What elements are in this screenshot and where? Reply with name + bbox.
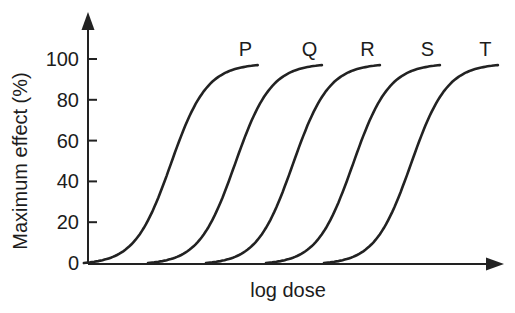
curve-label-S: S [421,38,434,60]
curve-label-Q: Q [302,38,318,60]
curve-label-P: P [239,38,252,60]
dose-response-chart: 020406080100PQRSTlog doseMaximum effect … [0,0,515,313]
curve-Q [148,65,322,263]
y-axis-arrow-icon [82,12,95,30]
y-axis-label: Maximum effect (%) [9,72,31,249]
y-tick-label-0: 0 [68,252,79,274]
dose-response-figure: 020406080100PQRSTlog doseMaximum effect … [0,0,515,313]
curve-label-T: T [479,38,491,60]
y-tick-label-20: 20 [57,211,79,233]
x-axis-arrow-icon [486,258,504,271]
y-tick-label-100: 100 [46,48,79,70]
x-axis-label: log dose [250,279,326,301]
curve-label-R: R [360,38,374,60]
curve-P [84,65,258,263]
curve-T [324,65,498,263]
y-tick-label-40: 40 [57,170,79,192]
y-tick-label-80: 80 [57,89,79,111]
y-tick-label-60: 60 [57,130,79,152]
